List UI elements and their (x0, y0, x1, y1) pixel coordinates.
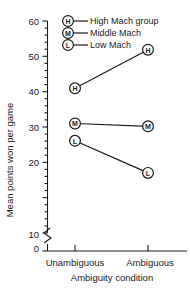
series-middle-mach: M M (70, 118, 154, 132)
y-tick-label-20: 20 (28, 157, 39, 168)
legend-marker-middle-mach-letter: M (65, 30, 71, 37)
legend-item-high-mach: H High Mach group (63, 16, 159, 27)
legend-item-middle-mach: M Middle Mach (63, 28, 141, 39)
y-tick-label-60: 60 (28, 16, 39, 27)
data-point-low-mach-ambiguous-letter: L (146, 170, 151, 177)
series-line-low-mach (75, 141, 148, 173)
legend-label-high-mach: High Mach group (90, 16, 159, 26)
data-point-high-mach-unambiguous-letter: H (72, 85, 77, 92)
y-tick-label-0: 0 (34, 243, 39, 254)
series-low-mach: L L (70, 135, 154, 178)
data-point-low-mach-unambiguous-letter: L (73, 138, 78, 145)
series-high-mach: H H (70, 44, 154, 93)
figure-container: Mean points won per game (0, 0, 190, 297)
legend-marker-low-mach-letter: L (66, 42, 71, 49)
series-line-middle-mach (75, 124, 148, 127)
legend-label-middle-mach: Middle Mach (90, 28, 141, 38)
legend-marker-high-mach-letter: H (65, 18, 70, 25)
y-tick-label-40: 40 (28, 86, 39, 97)
x-axis-ticks (75, 245, 148, 251)
y-tick-label-30: 30 (28, 122, 39, 133)
x-tick-label-ambiguous: Ambiguous (126, 257, 174, 268)
line-chart: Mean points won per game (0, 0, 190, 297)
x-tick-label-unambiguous: Unambiguous (46, 257, 105, 268)
data-point-middle-mach-unambiguous-letter: M (72, 120, 78, 127)
legend-label-low-mach: Low Mach (90, 40, 131, 50)
axis-break-icon (44, 228, 51, 243)
x-axis-title: Ambiguity condition (71, 272, 153, 283)
series-line-high-mach (75, 50, 148, 89)
data-point-middle-mach-ambiguous-letter: M (145, 123, 151, 130)
legend-item-low-mach: L Low Mach (63, 40, 131, 51)
y-tick-label-10: 10 (28, 229, 39, 240)
y-axis-title: Mean points won per game (4, 103, 15, 218)
data-point-high-mach-ambiguous-letter: H (145, 47, 150, 54)
y-axis-major-ticks (43, 21, 48, 251)
y-tick-label-50: 50 (28, 51, 39, 62)
